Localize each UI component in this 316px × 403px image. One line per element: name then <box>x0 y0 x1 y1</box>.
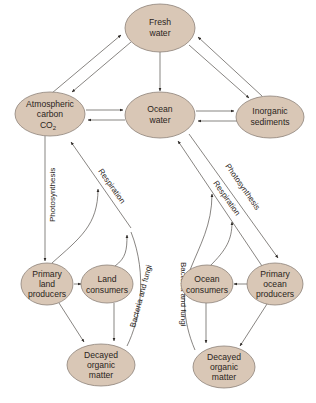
arrow-land-producers-to-decayed <box>59 303 84 342</box>
arrow-atmospheric-to-fresh-water <box>52 35 121 93</box>
node-label: matter <box>212 372 236 382</box>
node-decayed-organic-matter-ocean: Decayed organic matter <box>193 346 255 388</box>
label-land-respiration: Respiration <box>96 167 127 205</box>
node-label: sediments <box>250 117 289 127</box>
arrow-ocean-consumers-respiration <box>210 222 232 266</box>
node-label: producers <box>256 289 294 299</box>
node-primary-land-producers: Primary land producers <box>21 263 73 305</box>
node-land-consumers: Land consumers <box>81 265 133 303</box>
node-inorganic-sediments: Inorganic sediments <box>236 96 304 138</box>
node-decayed-organic-matter-land: Decayed organic matter <box>67 344 135 386</box>
node-label: water <box>148 115 170 125</box>
node-label: matter <box>89 370 113 380</box>
node-label: carbon <box>37 109 63 119</box>
node-label: Atmospheric <box>26 99 74 109</box>
node-label: consumers <box>186 285 228 295</box>
arrow-land-consumers-respiration <box>115 235 127 266</box>
node-label: Decayed <box>84 350 118 360</box>
node-primary-ocean-producers: Primary ocean producers <box>247 263 303 305</box>
arrow-land-respiration <box>71 142 131 228</box>
arrow-ocean-photosynthesis <box>189 134 278 258</box>
node-label: organic <box>87 360 116 370</box>
node-label: land <box>39 279 55 289</box>
node-fresh-water: Fresh water <box>125 4 195 52</box>
node-label: Inorganic <box>252 106 288 116</box>
arrow-ocean-producers-to-decayed <box>240 304 267 346</box>
node-label: Land <box>97 274 116 284</box>
node-label: Primary <box>32 269 62 279</box>
node-label: Decayed <box>207 352 241 362</box>
node-label: Primary <box>260 269 290 279</box>
node-label: producers <box>28 289 66 299</box>
edge-labels: Photosynthesis Respiration Bacteria and … <box>48 162 262 329</box>
arrow-fresh-water-to-atmospheric <box>72 42 131 92</box>
carbon-cycle-diagram: Photosynthesis Respiration Bacteria and … <box>0 0 316 403</box>
node-label: Fresh <box>149 17 171 27</box>
node-label: water <box>148 28 170 38</box>
node-shape <box>181 265 233 303</box>
arrow-fresh-water-to-inorganic <box>189 45 249 98</box>
node-label: Ocean <box>194 274 220 284</box>
label-land-photosynthesis: Photosynthesis <box>48 168 57 222</box>
label-land-bacteria-fungi: Bacteria and fungi <box>128 264 153 329</box>
arrow-inorganic-to-fresh-water <box>198 37 262 96</box>
arrow-land-producers-respiration <box>52 189 98 263</box>
node-ocean-consumers: Ocean consumers <box>181 265 233 303</box>
node-label: consumers <box>86 285 128 295</box>
node-label: organic <box>210 362 239 372</box>
node-shape <box>81 265 133 303</box>
node-label: ocean <box>263 279 287 289</box>
node-label: Ocean <box>147 104 173 114</box>
node-ocean-water: Ocean water <box>125 92 195 138</box>
node-atmospheric-carbon: Atmospheric carbon CO2 <box>15 92 85 136</box>
